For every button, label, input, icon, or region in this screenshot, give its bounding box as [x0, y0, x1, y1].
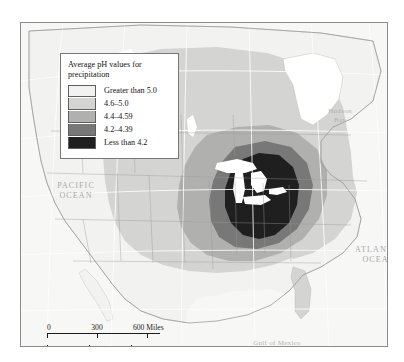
scale-miles-tick-600: 600 Miles [133, 323, 164, 332]
scale-miles-tick-0: 0 [47, 323, 51, 332]
scale-bar-miles: 0 300 600 Miles [47, 323, 160, 339]
map-frame: PACIFIC OCEAN ATLANTIC OCEAN Hudson Bay … [20, 22, 388, 347]
legend-label-greater-than-5: Greater than 5.0 [104, 86, 157, 95]
scale-bar-miles-rule [47, 333, 160, 339]
legend-swatch-greater-than-5 [68, 85, 96, 97]
legend-label-4-6-to-5-0: 4.6–5.0 [104, 99, 129, 108]
legend-swatch-less-than-4-2 [68, 137, 96, 149]
legend-label-4-4-to-4-59: 4.4–4.59 [104, 112, 133, 121]
legend-entry-greater-than-5: Greater than 5.0 [68, 84, 171, 97]
map-legend: Average pH values for precipitation Grea… [60, 53, 179, 159]
legend-entry-4-6-to-5-0: 4.6–5.0 [68, 97, 171, 110]
legend-swatch-4-4-to-4-59 [68, 111, 96, 123]
scale-bar-kilometers-rule [47, 344, 160, 347]
legend-title: Average pH values for precipitation [68, 60, 171, 80]
legend-entry-4-2-to-4-39: 4.2–4.39 [68, 123, 171, 136]
map-screenshot: PACIFIC OCEAN ATLANTIC OCEAN Hudson Bay … [0, 0, 404, 362]
legend-label-4-2-to-4-39: 4.2–4.39 [104, 125, 133, 134]
legend-swatch-4-2-to-4-39 [68, 124, 96, 136]
legend-entry-4-4-to-4-59: 4.4–4.59 [68, 110, 171, 123]
scale-miles-tick-300: 300 [91, 323, 102, 332]
legend-label-less-than-4-2: Less than 4.2 [104, 138, 147, 147]
legend-entries: Greater than 5.0 4.6–5.0 4.4–4.59 4.2–4.… [68, 84, 171, 149]
legend-swatch-4-6-to-5-0 [68, 98, 96, 110]
legend-entry-less-than-4-2: Less than 4.2 [68, 136, 171, 149]
scale-bar-miles-labels: 0 300 600 Miles [47, 323, 160, 333]
scale-bars: 0 300 600 Miles [47, 323, 160, 347]
scale-bar-kilometers: 0 300 600 Kilometers [47, 344, 160, 347]
